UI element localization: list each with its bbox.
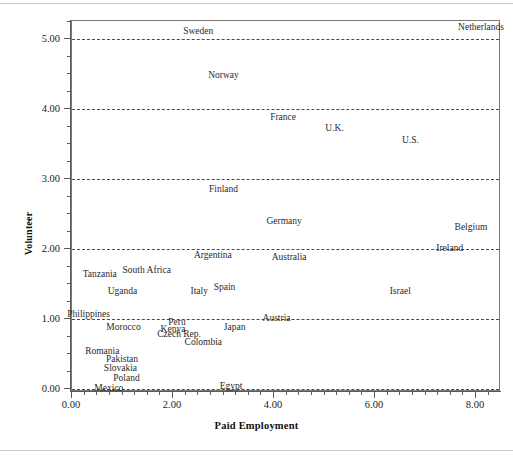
y-tick-minor xyxy=(67,371,71,372)
x-tick-minor xyxy=(223,391,224,395)
y-tick-minor xyxy=(67,143,71,144)
x-tick-major xyxy=(374,391,375,398)
data-point-label: U.K. xyxy=(325,125,343,135)
gridline-y-4.00 xyxy=(72,109,499,110)
x-tick-minor xyxy=(399,391,400,395)
x-tick-minor xyxy=(488,391,489,395)
y-tick-minor xyxy=(67,301,71,302)
x-tick-minor xyxy=(437,391,438,395)
y-tick-major xyxy=(64,108,71,109)
x-tick-minor xyxy=(197,391,198,395)
data-point-label: Finland xyxy=(209,185,238,195)
y-tick-minor xyxy=(67,283,71,284)
x-tick-minor xyxy=(324,391,325,395)
y-tick-minor xyxy=(67,231,71,232)
x-tick-major xyxy=(475,391,476,398)
x-tick-major xyxy=(71,391,72,398)
x-tick-minor xyxy=(185,391,186,395)
x-tick-minor xyxy=(450,391,451,395)
gridline-y-0.00 xyxy=(72,389,499,390)
data-point-label: Sweden xyxy=(183,27,213,37)
y-tick-minor xyxy=(67,336,71,337)
x-tick-minor xyxy=(462,391,463,395)
bottom-divider-rule xyxy=(0,450,513,451)
x-tick-minor xyxy=(210,391,211,395)
data-point-label: Norway xyxy=(208,71,239,81)
y-tick-minor xyxy=(67,73,71,74)
data-point-label: U.S. xyxy=(402,136,419,146)
y-tick-major xyxy=(64,38,71,39)
x-tick-minor xyxy=(159,391,160,395)
gridline-y-5.00 xyxy=(72,39,499,40)
y-tick-label: 1.00 xyxy=(20,313,60,324)
data-point-label: Philippines xyxy=(67,310,110,320)
top-divider-rule xyxy=(0,3,513,4)
x-tick-minor xyxy=(311,391,312,395)
x-tick-minor xyxy=(96,391,97,395)
y-tick-minor xyxy=(67,21,71,22)
x-tick-minor xyxy=(260,391,261,395)
x-tick-minor xyxy=(387,391,388,395)
x-tick-label: 4.00 xyxy=(264,399,282,410)
y-tick-minor xyxy=(67,213,71,214)
data-point-label: Belgium xyxy=(455,223,488,233)
y-tick-minor xyxy=(67,196,71,197)
y-tick-minor xyxy=(67,91,71,92)
x-tick-minor xyxy=(109,391,110,395)
scatter-plot-figure: SwedenNetherlandsNorwayFranceU.K.U.S.Fin… xyxy=(0,0,513,457)
data-point-label: Spain xyxy=(214,283,236,293)
data-point-label: Israel xyxy=(390,287,411,297)
data-point-label: Poland xyxy=(113,374,139,384)
y-axis-title: Volunteer xyxy=(23,184,34,284)
y-tick-label: 0.00 xyxy=(20,383,60,394)
x-tick-minor xyxy=(298,391,299,395)
x-tick-minor xyxy=(122,391,123,395)
y-tick-label: 3.00 xyxy=(20,173,60,184)
y-tick-minor xyxy=(67,56,71,57)
y-tick-label: 5.00 xyxy=(20,33,60,44)
data-point-label: Japan xyxy=(224,323,246,333)
y-tick-major xyxy=(64,248,71,249)
data-point-label: Germany xyxy=(266,218,301,228)
x-tick-minor xyxy=(349,391,350,395)
data-point-label: Ireland xyxy=(436,244,463,254)
gridline-y-3.00 xyxy=(72,179,499,180)
y-tick-label: 4.00 xyxy=(20,103,60,114)
x-tick-minor xyxy=(425,391,426,395)
plot-area: SwedenNetherlandsNorwayFranceU.K.U.S.Fin… xyxy=(71,20,500,391)
data-point-label: Uganda xyxy=(108,287,138,297)
x-tick-label: 8.00 xyxy=(466,399,484,410)
gridline-y-2.00 xyxy=(72,249,499,250)
x-tick-minor xyxy=(147,391,148,395)
x-tick-minor xyxy=(336,391,337,395)
x-tick-minor xyxy=(286,391,287,395)
x-tick-minor xyxy=(235,391,236,395)
y-tick-major xyxy=(64,178,71,179)
x-tick-major xyxy=(172,391,173,398)
x-tick-minor xyxy=(361,391,362,395)
data-point-label: Colombia xyxy=(185,338,222,348)
x-tick-minor xyxy=(248,391,249,395)
x-axis-title: Paid Employment xyxy=(0,420,513,431)
data-point-label: Morocco xyxy=(106,323,140,333)
x-tick-minor xyxy=(84,391,85,395)
data-point-label: Argentina xyxy=(194,251,232,261)
x-tick-label: 0.00 xyxy=(62,399,80,410)
data-point-label: France xyxy=(270,113,296,123)
x-tick-major xyxy=(273,391,274,398)
y-tick-minor xyxy=(67,353,71,354)
x-tick-label: 2.00 xyxy=(163,399,181,410)
data-point-label: Italy xyxy=(191,287,208,297)
data-point-label: Netherlands xyxy=(458,23,504,33)
data-point-label: Australia xyxy=(272,253,307,263)
y-tick-major xyxy=(64,388,71,389)
data-point-label: Tanzania xyxy=(83,270,117,280)
y-tick-minor xyxy=(67,126,71,127)
data-point-label: Austria xyxy=(263,314,291,324)
y-tick-minor xyxy=(67,161,71,162)
y-tick-minor xyxy=(67,266,71,267)
data-point-label: South Africa xyxy=(123,267,171,277)
y-tick-major xyxy=(64,318,71,319)
x-tick-label: 6.00 xyxy=(365,399,383,410)
x-tick-minor xyxy=(412,391,413,395)
